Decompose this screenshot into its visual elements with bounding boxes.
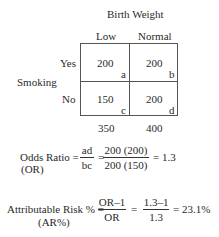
row-label-no: No (62, 93, 75, 105)
cell-b-value: 200 (146, 57, 163, 69)
attributable-risk-abbrev: (AR%) (38, 216, 70, 228)
cell-c-label: c (121, 104, 126, 116)
table-divider-horizontal (81, 81, 177, 82)
fraction-numerator: OR–1 (99, 196, 125, 208)
cell-d-value: 200 (146, 93, 163, 105)
fraction-bar (80, 157, 94, 158)
row-label-yes: Yes (60, 57, 76, 69)
row-header-smoking: Smoking (17, 76, 57, 88)
attributable-risk-result: = 23.1% (173, 203, 210, 215)
attributable-risk-fraction-numeric: 1.3–1 1.3 (143, 196, 169, 223)
cell-d-label: d (169, 104, 175, 116)
column-header-birth-weight: Birth Weight (107, 8, 164, 20)
fraction-denominator: bc (82, 159, 92, 171)
odds-ratio-result: = 1.3 (153, 151, 176, 163)
fraction-denominator: 200 (150) (104, 159, 147, 171)
cell-a-value: 200 (97, 57, 114, 69)
fraction-bar (143, 209, 169, 210)
table-divider-vertical (129, 44, 130, 115)
column-label-low: Low (96, 30, 116, 42)
fraction-denominator: 1.3 (149, 211, 163, 223)
column-label-normal: Normal (138, 30, 172, 42)
fraction-numerator: ad (82, 144, 92, 156)
cell-a-label: a (121, 68, 126, 80)
contingency-table: 200 a 200 b 150 c 200 d (80, 43, 178, 116)
odds-ratio-fraction-numeric: 200 (200) 200 (150) (103, 144, 149, 171)
odds-ratio-label: Odds Ratio = (20, 151, 79, 163)
fraction-bar (103, 157, 149, 158)
fraction-denominator: OR (104, 211, 119, 223)
cell-c-value: 150 (97, 93, 114, 105)
odds-ratio-abbrev: (OR) (21, 163, 44, 175)
total-low: 350 (98, 122, 115, 134)
attributable-risk-label: Attributable Risk % = (7, 203, 104, 215)
fraction-numerator: 1.3–1 (144, 196, 169, 208)
equals-sign: = (131, 203, 137, 215)
odds-ratio-fraction-symbolic: ad bc (80, 144, 94, 171)
attributable-risk-fraction-symbolic: OR–1 OR (98, 196, 126, 223)
fraction-bar (98, 209, 126, 210)
total-normal: 400 (146, 122, 163, 134)
cell-b-label: b (169, 68, 175, 80)
fraction-numerator: 200 (200) (104, 144, 147, 156)
